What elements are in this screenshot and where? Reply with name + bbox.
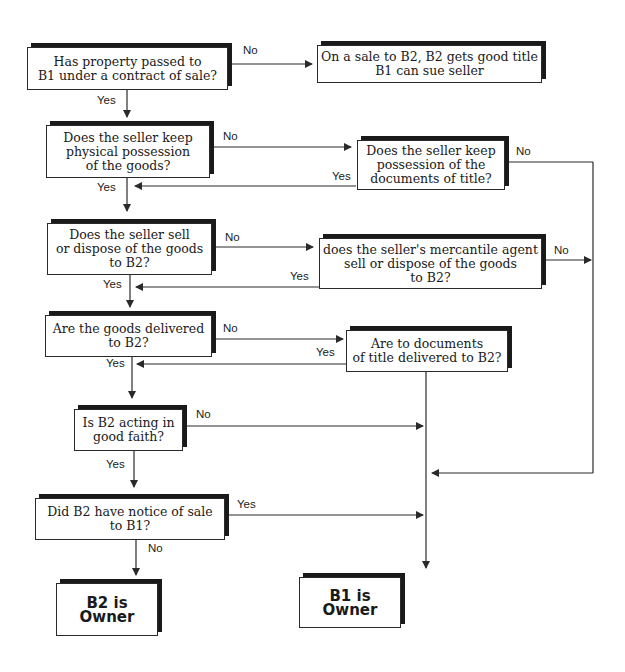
label-property-no: No xyxy=(243,44,258,56)
question-good-faith: Is B2 acting in good faith? xyxy=(74,409,183,451)
label-agent-no: No xyxy=(554,244,569,256)
label-keeps-docs-no: No xyxy=(516,145,531,157)
label-keeps-goods-no: No xyxy=(223,130,238,142)
result-b1-owner: B1 is Owner xyxy=(299,577,401,628)
label-good-faith-yes: Yes xyxy=(106,458,125,470)
label-docs-delivered-yes: Yes xyxy=(316,346,335,358)
label-notice-yes: Yes xyxy=(237,498,256,510)
question-property-passed: Has property passed to B1 under a contra… xyxy=(27,47,228,90)
question-seller-sells-to-b2: Does the seller sell or dispose of the g… xyxy=(47,223,212,275)
label-delivered-yes: Yes xyxy=(106,357,125,369)
question-seller-keeps-documents: Does the seller keep possession of the d… xyxy=(357,140,505,190)
label-good-faith-no: No xyxy=(196,408,211,420)
flowchart-canvas: Has property passed to B1 under a contra… xyxy=(0,0,625,672)
label-delivered-no: No xyxy=(223,322,238,334)
label-sells-no: No xyxy=(225,231,240,243)
question-notice-of-sale: Did B2 have notice of sale to B1? xyxy=(35,498,225,540)
result-sale-to-b2: On a sale to B2, B2 gets good title B1 c… xyxy=(317,45,542,83)
question-documents-delivered: Are to documents of title delivered to B… xyxy=(346,330,508,372)
label-notice-no: No xyxy=(148,542,163,554)
label-keeps-docs-yes: Yes xyxy=(332,170,351,182)
result-b2-owner: B2 is Owner xyxy=(56,583,158,636)
label-keeps-goods-yes: Yes xyxy=(97,181,116,193)
label-agent-yes: Yes xyxy=(290,270,309,282)
question-agent-sells-to-b2: does the seller's mercantile agent sell … xyxy=(319,238,542,289)
question-goods-delivered: Are the goods delivered to B2? xyxy=(45,315,212,357)
question-seller-keeps-goods: Does the seller keep physical possession… xyxy=(46,125,210,178)
label-property-yes: Yes xyxy=(97,94,116,106)
label-sells-yes: Yes xyxy=(103,278,122,290)
